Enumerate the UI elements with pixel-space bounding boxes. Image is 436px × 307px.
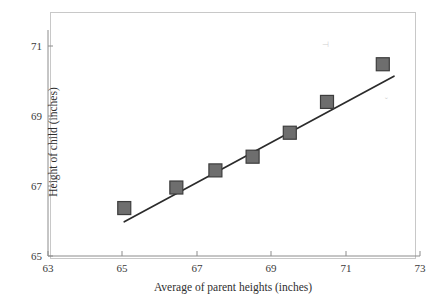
x-tick-label: 63 xyxy=(43,262,54,274)
figure-container: 63 65 67 69 71 73 65 67 69 71 Average of… xyxy=(0,0,436,307)
y-tick-label: 71 xyxy=(18,40,42,52)
y-tick-label: 67 xyxy=(18,180,42,192)
data-point xyxy=(321,95,334,108)
data-point xyxy=(246,150,259,163)
x-tick-label: 73 xyxy=(415,262,426,274)
data-point xyxy=(118,202,131,215)
x-axis-title: Average of parent heights (inches) xyxy=(50,281,416,293)
data-point xyxy=(209,164,222,177)
regression-line xyxy=(124,76,394,222)
x-tick-label: 71 xyxy=(341,262,352,274)
x-tick-label: 67 xyxy=(192,262,203,274)
data-point xyxy=(376,58,389,71)
x-tick-label: 69 xyxy=(266,262,277,274)
data-point xyxy=(283,126,296,139)
y-axis-title: Height of child (inches) xyxy=(47,42,59,242)
scan-artifact: ˇ xyxy=(385,97,388,106)
y-tick-label: 65 xyxy=(18,250,42,262)
scan-artifact: ⊣ xyxy=(322,40,329,49)
data-point xyxy=(170,181,183,194)
plot-canvas xyxy=(0,0,436,307)
y-tick-label: 69 xyxy=(18,110,42,122)
data-markers xyxy=(118,58,390,215)
x-tick-label: 65 xyxy=(117,262,128,274)
x-tick-marks xyxy=(48,251,420,256)
